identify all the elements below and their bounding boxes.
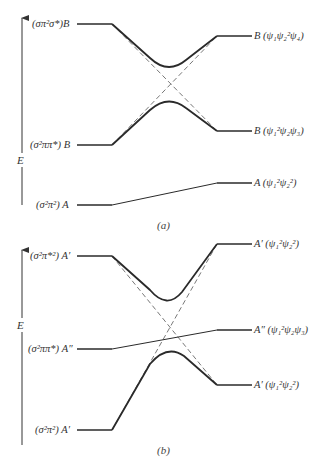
axis-label-energy-a: E (17, 153, 24, 167)
label-b-right-bottom: A′ (ψ₁²ψ₂²) (254, 380, 299, 391)
correlation-a-A (112, 183, 217, 205)
label-b-right-mid: A″ (ψ₁²ψ₂ψ₃) (254, 325, 308, 336)
correlation-diagrams (0, 0, 328, 463)
label-a-left-top: (σπ²σ*)B (32, 19, 69, 30)
curve-b-upper (112, 244, 217, 301)
dashed-a-1 (112, 24, 217, 131)
curve-a-lower (112, 101, 217, 145)
axis-label-energy-b: E (17, 318, 24, 332)
label-a-right-top: B (ψ₁ψ₂²ψ₄) (254, 31, 304, 42)
caption-b: (b) (157, 444, 170, 456)
diagram-a (22, 18, 252, 205)
label-b-right-top: A′ (ψ₁²ψ₂²) (254, 239, 299, 250)
caption-a: (a) (157, 219, 170, 231)
curve-a-upper (112, 24, 217, 67)
dashed-a-2 (112, 36, 217, 145)
dashed-b-1 (112, 256, 217, 385)
label-a-right-bottom: A (ψ₁²ψ₂²) (254, 178, 296, 189)
label-b-left-bottom: (σ²π²) A′ (35, 425, 70, 436)
label-b-left-top: (σ²π*²) A′ (30, 251, 70, 262)
label-a-right-mid: B (ψ₁²ψ₂ψ₃) (254, 126, 304, 137)
curve-b-lower (112, 352, 217, 431)
label-a-left-mid: (σ²ππ*) B (30, 140, 70, 151)
label-a-left-bottom: (σ²π²) A (36, 200, 69, 211)
label-b-left-mid: (σ²ππ*) A″ (28, 344, 73, 355)
correlation-b-A2 (112, 330, 217, 349)
